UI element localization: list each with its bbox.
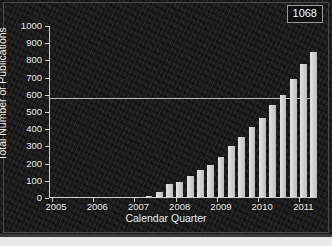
y-tick-mark <box>45 112 49 113</box>
x-axis-title: Calendar Quarter <box>0 213 332 224</box>
y-tick-label: 400 <box>26 124 42 134</box>
y-tick-mark <box>45 198 49 199</box>
y-tick-mark <box>45 78 49 79</box>
y-tick-mark <box>45 43 49 44</box>
x-tick-label: 2011 <box>293 202 313 212</box>
bar <box>249 127 256 198</box>
bar <box>207 165 214 198</box>
bar <box>238 137 245 198</box>
y-tick-mark <box>45 129 49 130</box>
y-tick-mark <box>45 164 49 165</box>
bar <box>176 182 183 198</box>
y-tick-mark <box>45 60 49 61</box>
bar <box>280 95 287 198</box>
bar <box>310 52 317 198</box>
bar <box>218 157 225 198</box>
x-tick-label: 2007 <box>128 202 149 212</box>
y-tick-label: 900 <box>26 38 42 48</box>
y-tick-label: 300 <box>26 142 42 152</box>
x-tick-label: 2008 <box>169 202 190 212</box>
plot-area: 01002003004005006007008009001000 2005200… <box>49 26 317 198</box>
bar <box>156 192 163 198</box>
y-tick-label: 1000 <box>21 21 42 31</box>
x-tick-label: 2009 <box>210 202 231 212</box>
y-tick-mark <box>45 146 49 147</box>
y-tick-mark <box>45 181 49 182</box>
bar <box>290 79 297 198</box>
bar <box>259 118 266 198</box>
bottom-white-strip <box>0 237 332 246</box>
x-tick-label: 2010 <box>252 202 273 212</box>
bar <box>135 197 142 198</box>
y-axis-title: Total Number of Publications <box>0 27 8 161</box>
bar <box>269 105 276 198</box>
y-tick-label: 200 <box>26 159 42 169</box>
y-tick-label: 800 <box>26 56 42 66</box>
bar <box>146 196 153 198</box>
x-tick-label: 2005 <box>45 202 66 212</box>
y-tick-mark <box>45 26 49 27</box>
y-tick-label: 500 <box>26 107 42 117</box>
annotation-value-badge: 1068 <box>287 5 323 23</box>
x-tick-label: 2006 <box>87 202 108 212</box>
bar <box>197 170 204 198</box>
bar <box>300 64 307 198</box>
bar <box>187 176 194 198</box>
chart-figure: 1068 01002003004005006007008009001000 20… <box>0 0 332 246</box>
y-tick-label: 600 <box>26 90 42 100</box>
reference-line <box>49 98 317 99</box>
bar <box>228 146 235 198</box>
y-tick-label: 0 <box>37 193 42 203</box>
y-axis-line <box>49 26 50 198</box>
bar <box>166 184 173 198</box>
y-tick-label: 100 <box>26 176 42 186</box>
y-tick-label: 700 <box>26 73 42 83</box>
y-tick-mark <box>45 95 49 96</box>
